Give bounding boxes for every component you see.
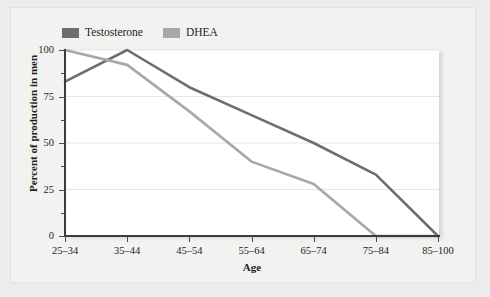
x-tick-label-4: 65–74 bbox=[284, 246, 344, 257]
y-tick-label-0: 0 bbox=[20, 231, 54, 242]
x-tick-0 bbox=[65, 237, 66, 242]
x-tick-label-5: 75–84 bbox=[346, 246, 406, 257]
legend-item-testosterone: Testosterone bbox=[62, 27, 143, 39]
y-tick-75 bbox=[59, 97, 65, 98]
y-axis-title: Percent of production in men bbox=[28, 44, 39, 204]
y-tick-minor-62.5 bbox=[61, 120, 65, 121]
x-axis-title: Age bbox=[65, 262, 439, 273]
plot-area bbox=[65, 50, 439, 236]
legend-swatch-testosterone bbox=[62, 28, 79, 38]
y-tick-minor-87.5 bbox=[61, 73, 65, 74]
y-tick-50 bbox=[59, 143, 65, 144]
legend-label-dhea: DHEA bbox=[186, 27, 218, 39]
x-tick-label-0: 25–34 bbox=[35, 246, 95, 257]
x-tick-4 bbox=[314, 237, 315, 242]
x-tick-2 bbox=[189, 237, 190, 242]
y-tick-25 bbox=[59, 190, 65, 191]
legend-label-testosterone: Testosterone bbox=[85, 27, 143, 39]
x-tick-label-6: 85–100 bbox=[408, 246, 468, 257]
y-tick-minor-12.5 bbox=[61, 213, 65, 214]
y-tick-100 bbox=[59, 50, 65, 51]
y-tick-minor-37.5 bbox=[61, 166, 65, 167]
x-tick-label-3: 55–64 bbox=[222, 246, 282, 257]
chart-figure: Testosterone DHEA 0255075100 25–3435–444… bbox=[0, 0, 490, 297]
x-tick-6 bbox=[438, 237, 439, 242]
legend-swatch-dhea bbox=[163, 28, 180, 38]
plot-svg bbox=[65, 50, 439, 236]
x-tick-label-2: 45–54 bbox=[159, 246, 219, 257]
gridlines bbox=[65, 50, 439, 190]
x-tick-1 bbox=[127, 237, 128, 242]
legend-item-dhea: DHEA bbox=[163, 27, 218, 39]
x-tick-label-1: 35–44 bbox=[97, 246, 157, 257]
chart-legend: Testosterone DHEA bbox=[62, 26, 218, 40]
x-tick-3 bbox=[252, 237, 253, 242]
x-tick-5 bbox=[376, 237, 377, 242]
